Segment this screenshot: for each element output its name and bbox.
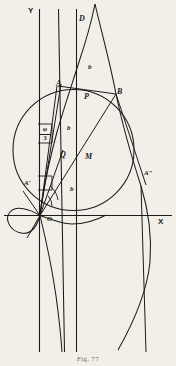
construction-verticals <box>59 9 77 352</box>
segment-label-b-lower: b <box>70 186 74 193</box>
point-label-d: D <box>79 15 85 23</box>
y-axis-label: Y <box>28 7 33 15</box>
curve-left-branch <box>40 4 95 216</box>
segment-label-b-top: b <box>88 64 92 71</box>
point-label-a-prime: A′ <box>24 180 31 187</box>
point-label-a-double-prime: A″ <box>144 170 153 177</box>
curve-right-branch <box>95 4 151 350</box>
point-label-q: Q <box>60 151 66 159</box>
segment-label-b-middle: b <box>67 125 71 132</box>
point-label-m: M <box>85 153 92 161</box>
x-axis-label: X <box>158 218 163 226</box>
figure-page: Y X A B D P Q M A′ A″ O b b b φ 3 Fig. 7… <box>0 0 176 366</box>
angle-label-numerator: φ <box>39 126 51 133</box>
ray-origin-to-p <box>40 84 61 216</box>
point-label-a: A <box>56 80 61 88</box>
rays-from-origin <box>23 84 116 238</box>
curve-loop <box>8 208 40 233</box>
vertical-line-through-a-double-prime <box>141 186 146 352</box>
chord-group <box>58 86 146 352</box>
figure-caption: Fig. 77 <box>0 355 176 363</box>
origin-label: O <box>47 216 52 223</box>
angle-label-denominator: 3 <box>39 135 51 142</box>
angle-label-phi-over-three: φ 3 <box>39 126 51 143</box>
segment-b-to-a-double-prime <box>116 94 146 185</box>
curve-descending-branch <box>40 216 62 353</box>
ray-origin-to-q <box>40 150 63 216</box>
ray-origin-tangent-left <box>27 216 40 239</box>
point-label-b-upper: B <box>117 88 122 96</box>
point-label-p: P <box>84 93 89 101</box>
ray-origin-to-a-prime <box>23 191 40 216</box>
